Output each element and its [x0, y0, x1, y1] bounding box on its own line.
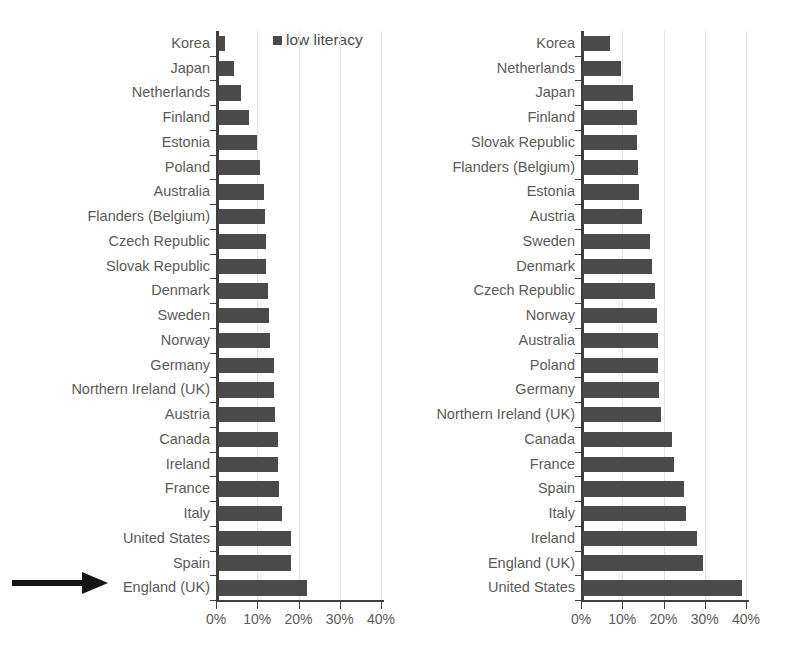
bar-row: Sweden	[216, 303, 381, 328]
bar	[583, 234, 650, 249]
bar-row: Poland	[216, 155, 381, 180]
category-label: Korea	[171, 31, 210, 56]
category-label: Canada	[524, 427, 575, 452]
bar	[583, 259, 652, 274]
arrow-head-icon	[82, 572, 108, 594]
bar	[583, 110, 637, 125]
x-axis-tick-label: 20%	[649, 611, 677, 627]
x-axis-tick	[746, 602, 747, 609]
bar-row: Norway	[581, 303, 746, 328]
bar	[583, 85, 633, 100]
category-label: Japan	[535, 80, 575, 105]
category-label: Sweden	[158, 303, 210, 328]
category-label: Austria	[530, 204, 575, 229]
category-label: Korea	[536, 31, 575, 56]
bar-row: Austria	[581, 204, 746, 229]
category-label: Spain	[173, 551, 210, 576]
category-label: Flanders (Belgium)	[453, 155, 576, 180]
category-label: Northern Ireland (UK)	[436, 402, 575, 427]
bar-row: Czech Republic	[216, 229, 381, 254]
category-label: Flanders (Belgium)	[88, 204, 211, 229]
bar-row: Korea	[216, 31, 381, 56]
category-label: Spain	[538, 476, 575, 501]
bar-row: Germany	[216, 353, 381, 378]
bar-row: Japan	[581, 80, 746, 105]
category-label: Italy	[183, 501, 210, 526]
category-label: Austria	[165, 402, 210, 427]
x-axis-tick-label: 10%	[243, 611, 271, 627]
bar	[218, 481, 279, 496]
bar-row: Czech Republic	[581, 278, 746, 303]
bar-row: Finland	[216, 105, 381, 130]
bar	[218, 209, 265, 224]
bar-row: Canada	[216, 427, 381, 452]
category-label: Denmark	[516, 254, 575, 279]
bar-row: Denmark	[216, 278, 381, 303]
bar	[218, 506, 282, 521]
bar-row: Slovak Republic	[216, 254, 381, 279]
bar-row: Australia	[216, 179, 381, 204]
bar-row: United States	[581, 575, 746, 600]
bar	[218, 555, 291, 570]
arrow-shaft	[12, 580, 82, 586]
bar-row: Japan	[216, 56, 381, 81]
bar-row: Germany	[581, 377, 746, 402]
category-label: Ireland	[166, 452, 210, 477]
x-axis-tick	[299, 602, 300, 609]
x-axis-tick-label: 40%	[367, 611, 395, 627]
x-axis-tick-label: 20%	[284, 611, 312, 627]
bar	[218, 36, 225, 51]
figure-root: low literacy KoreaJapanNetherlandsFinlan…	[0, 0, 789, 651]
bar	[583, 481, 684, 496]
category-label: Netherlands	[132, 80, 210, 105]
category-label: Czech Republic	[108, 229, 210, 254]
bar-row: Norway	[216, 328, 381, 353]
category-label: England (UK)	[123, 575, 210, 600]
bar	[218, 85, 241, 100]
bar-row: Italy	[216, 501, 381, 526]
bar	[218, 259, 266, 274]
bar	[218, 308, 269, 323]
highlight-arrow-england-literacy	[12, 572, 108, 594]
category-label: Denmark	[151, 278, 210, 303]
bar	[218, 184, 264, 199]
bar-row: Netherlands	[581, 56, 746, 81]
bar	[583, 580, 742, 595]
bar	[583, 184, 639, 199]
category-label: Australia	[154, 179, 210, 204]
bar-row: Netherlands	[216, 80, 381, 105]
x-axis-tick	[381, 602, 382, 609]
bar	[583, 555, 703, 570]
bar	[583, 333, 658, 348]
bar	[218, 407, 275, 422]
category-label: Canada	[159, 427, 210, 452]
bar	[583, 160, 638, 175]
gridline	[746, 31, 747, 600]
bar	[218, 283, 268, 298]
bar-row: Flanders (Belgium)	[581, 155, 746, 180]
category-label: Poland	[165, 155, 210, 180]
category-label: Italy	[548, 501, 575, 526]
category-label: France	[165, 476, 210, 501]
x-axis-tick	[340, 602, 341, 609]
x-axis-tick-label: 40%	[732, 611, 760, 627]
bar	[583, 283, 655, 298]
bar	[583, 135, 637, 150]
bar-row: England (UK)	[581, 551, 746, 576]
bar-row: Slovak Republic	[581, 130, 746, 155]
category-label: Poland	[530, 353, 575, 378]
bar	[583, 382, 659, 397]
category-label: Slovak Republic	[471, 130, 575, 155]
bar	[218, 234, 266, 249]
category-label: Finland	[527, 105, 575, 130]
bar	[218, 432, 278, 447]
bar-row: Australia	[581, 328, 746, 353]
x-axis-tick-label: 10%	[608, 611, 636, 627]
category-label: United States	[123, 526, 210, 551]
category-label: Germany	[150, 353, 210, 378]
plot-area-numeracy: KoreaNetherlandsJapanFinlandSlovak Repub…	[581, 31, 746, 600]
bar	[583, 358, 658, 373]
bar	[218, 160, 260, 175]
category-label: Finland	[162, 105, 210, 130]
bar-row: Finland	[581, 105, 746, 130]
